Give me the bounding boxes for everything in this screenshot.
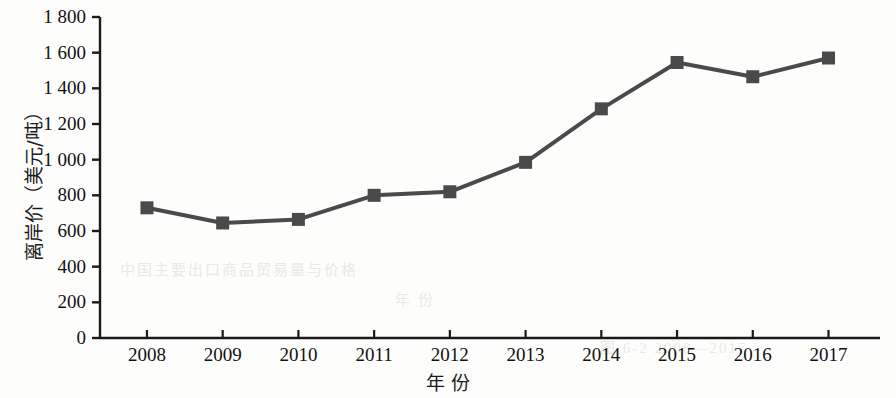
data-point-marker[interactable] — [822, 52, 835, 65]
data-point-marker[interactable] — [671, 56, 684, 69]
chart-figure: 中国主要出口商品贸易量与价格 年 份 图 6-2 2008—2017 离岸价（美… — [0, 0, 896, 398]
data-point-marker[interactable] — [519, 156, 532, 169]
data-line-series — [147, 58, 829, 223]
data-point-marker[interactable] — [140, 201, 153, 214]
data-point-marker[interactable] — [292, 213, 305, 226]
data-point-marker[interactable] — [595, 102, 608, 115]
data-point-marker[interactable] — [216, 216, 229, 229]
plot-area — [0, 0, 896, 398]
data-point-marker[interactable] — [368, 189, 381, 202]
data-point-marker[interactable] — [443, 185, 456, 198]
data-point-marker[interactable] — [746, 70, 759, 83]
